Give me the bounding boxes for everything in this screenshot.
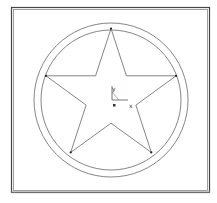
- outer-circle: [34, 23, 188, 177]
- x-axis-label: x: [129, 102, 133, 109]
- y-axis-label: y: [112, 85, 116, 93]
- star-vertex-5: [45, 75, 47, 77]
- star-vertex-1: [110, 27, 112, 29]
- axis-diagonal: [112, 92, 119, 100]
- origin-marker: [113, 104, 116, 107]
- star-vertex-4: [70, 151, 72, 153]
- star-vertex-2: [175, 75, 177, 77]
- inner-frame: [14, 10, 208, 191]
- star-vertex-3: [150, 151, 152, 153]
- inner-circle: [41, 30, 181, 170]
- diagram-canvas: y x: [0, 0, 217, 203]
- star-vertex-markers: [45, 27, 177, 153]
